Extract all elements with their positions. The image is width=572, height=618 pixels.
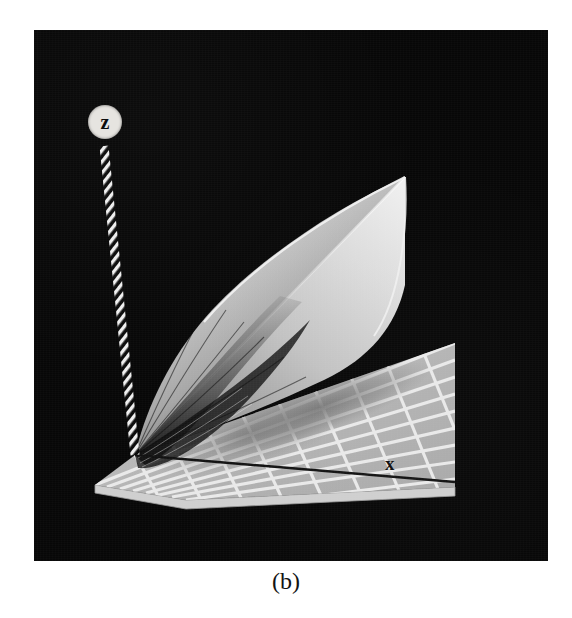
figure-container: z x (b) — [0, 0, 572, 618]
figure-caption: (b) — [0, 568, 572, 595]
plot-panel: z x — [34, 30, 548, 561]
z-axis-label-text: z — [101, 112, 110, 132]
x-axis-label: x — [385, 454, 395, 473]
z-axis-pole — [104, 146, 135, 455]
z-axis-label-bubble: z — [88, 105, 122, 139]
